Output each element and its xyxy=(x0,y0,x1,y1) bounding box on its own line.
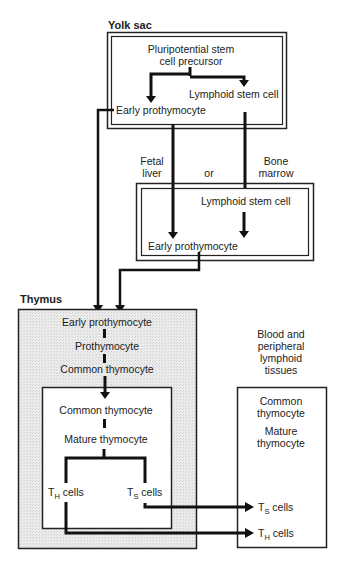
blood-title-4: tissues xyxy=(265,364,298,376)
blood-title-3: lymphoid xyxy=(260,352,302,364)
or-label: or xyxy=(204,167,214,179)
dash-1 xyxy=(103,329,106,338)
dash-3 xyxy=(103,419,106,428)
blood-title-1: Blood and xyxy=(257,328,304,340)
blood-mature-2: thymocyte xyxy=(257,437,305,449)
arrowhead-fetal-early xyxy=(168,232,178,239)
fetal-label-1: Fetal xyxy=(140,155,163,167)
arrowhead-bm-early xyxy=(239,231,249,238)
bm-early-prothymocyte-label: Early prothymocyte xyxy=(148,240,238,252)
inner-common-label: Common thymocyte xyxy=(59,404,153,416)
yolk-early-prothymocyte-label: Early prothymocyte xyxy=(116,104,206,116)
blood-mature-1: Mature xyxy=(265,425,298,437)
mature-thymocyte-label: Mature thymocyte xyxy=(64,433,148,445)
thymus-early-label: Early prothymocyte xyxy=(62,316,152,328)
arrowhead-early xyxy=(146,96,156,103)
yolk-lymphoid-label: Lymphoid stem cell xyxy=(189,88,278,100)
thymocyte-development-diagram: Yolk sac Pluripotential stem cell precur… xyxy=(0,0,340,563)
bone-label-1: Bone xyxy=(264,155,289,167)
bone-label-2: marrow xyxy=(258,167,293,179)
yolk-sac-title: Yolk sac xyxy=(108,19,152,31)
fetal-label-2: liver xyxy=(142,167,162,179)
pluripotential-label-2: cell precursor xyxy=(159,55,223,67)
bm-lymphoid-label: Lymphoid stem cell xyxy=(201,195,290,207)
thymus-title: Thymus xyxy=(20,293,62,305)
yolk-to-thymus-line xyxy=(98,110,114,306)
blood-title-2: peripheral xyxy=(258,340,305,352)
prothymocyte-label: Prothymocyte xyxy=(75,340,139,352)
dash-2 xyxy=(103,354,106,363)
arrowhead-lymphoid xyxy=(239,80,249,87)
blood-common-1: Common xyxy=(260,395,303,407)
common-thymocyte-label: Common thymocyte xyxy=(60,363,154,375)
blood-common-2: thymocyte xyxy=(257,407,305,419)
pluripotential-label-1: Pluripotential stem xyxy=(148,43,235,55)
